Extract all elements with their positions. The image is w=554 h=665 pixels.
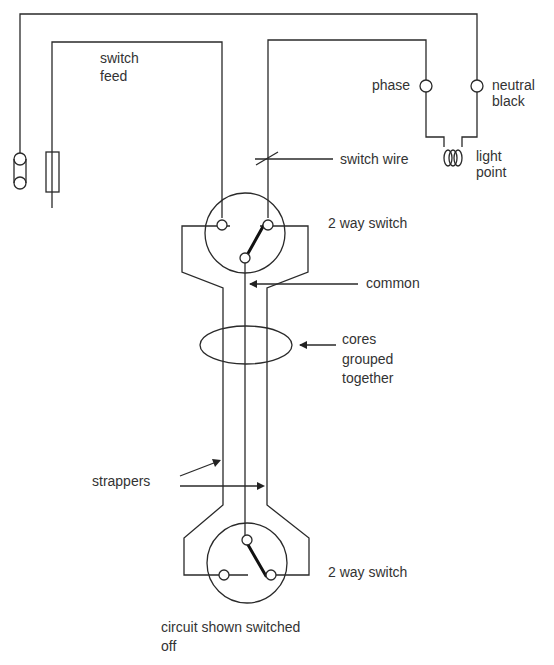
label-neutral-1: neutral	[492, 77, 535, 93]
switch-top-terminal-l1	[217, 220, 227, 230]
phase-to-lamp	[426, 92, 444, 147]
label-cores-1: cores	[342, 331, 376, 347]
phase-terminal	[420, 80, 432, 92]
label-neutral-2: black	[492, 93, 526, 109]
label-cores-2: grouped	[342, 351, 393, 367]
label-cores-3: together	[342, 370, 394, 386]
cores-grouped-ellipse	[200, 326, 292, 364]
switch-bottom-terminal-l1	[219, 570, 229, 580]
switch-box-outline-right	[260, 226, 309, 575]
switch-bottom-terminal-l2	[266, 570, 276, 580]
strapper-pointer-1	[180, 461, 219, 476]
label-switch-top: 2 way switch	[328, 215, 407, 231]
switch-top-lever	[246, 223, 265, 257]
label-switch-feed-2: feed	[100, 68, 127, 84]
switch-wire	[268, 40, 426, 218]
switch-bottom-terminal-common	[242, 535, 252, 545]
cores-arrowhead	[299, 341, 307, 349]
switch-bottom-lever	[247, 543, 266, 576]
label-switch-feed-1: switch	[100, 50, 139, 66]
switch-box-outline-left	[182, 226, 248, 575]
switch-top-terminal-l2	[263, 220, 273, 230]
label-caption-1: circuit shown switched	[161, 619, 300, 635]
common-arrowhead	[249, 280, 257, 288]
label-strappers: strappers	[92, 473, 150, 489]
label-common: common	[366, 275, 420, 291]
label-light-point-2: point	[476, 164, 506, 180]
light-point-icon	[444, 150, 462, 166]
wiring-diagram: switch feed phase neutral black switch w…	[0, 0, 554, 665]
label-phase: phase	[372, 77, 410, 93]
label-caption-2: off	[161, 638, 176, 654]
neutral-link-icon	[14, 153, 26, 189]
neutral-terminal	[471, 80, 483, 92]
neutral-to-lamp	[462, 92, 477, 147]
switch-feed-wire	[52, 42, 222, 218]
label-switch-bottom: 2 way switch	[328, 564, 407, 580]
label-switch-wire: switch wire	[340, 151, 409, 167]
switch-top-terminal-common	[240, 253, 250, 263]
label-light-point-1: light	[476, 148, 502, 164]
strapper-arrowhead-2	[257, 482, 265, 490]
